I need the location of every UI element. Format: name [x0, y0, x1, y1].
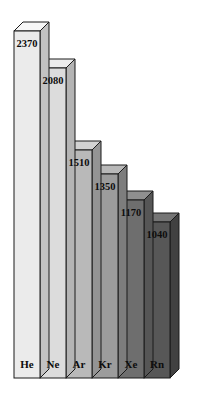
- bar-side-face: [118, 165, 127, 378]
- bar-value-label: 1510: [69, 157, 90, 168]
- category-label-ne: Ne: [47, 358, 60, 370]
- category-label-he: He: [20, 358, 34, 370]
- category-label-xe: Xe: [125, 358, 138, 370]
- bar-chart-canvas: 237020801510135011701040 HeNeArKrXeRn: [0, 0, 210, 402]
- category-label-rn: Rn: [150, 358, 164, 370]
- bar-side-face: [170, 213, 179, 378]
- bar-side-face: [144, 191, 153, 378]
- bar-chart-figure: 237020801510135011701040 HeNeArKrXeRn: [0, 0, 210, 402]
- bar-value-label: 1350: [95, 181, 116, 192]
- category-label-kr: Kr: [98, 358, 112, 370]
- bar-value-label: 1040: [147, 229, 168, 240]
- bar-value-label: 2080: [43, 75, 64, 86]
- bar-side-face: [92, 141, 101, 378]
- bars-group: [14, 22, 179, 378]
- bar-front-face: [14, 31, 40, 378]
- bar-side-face: [66, 59, 75, 378]
- bar-value-label: 1170: [121, 207, 141, 218]
- bar-value-label: 2370: [17, 38, 38, 49]
- category-label-ar: Ar: [73, 358, 86, 370]
